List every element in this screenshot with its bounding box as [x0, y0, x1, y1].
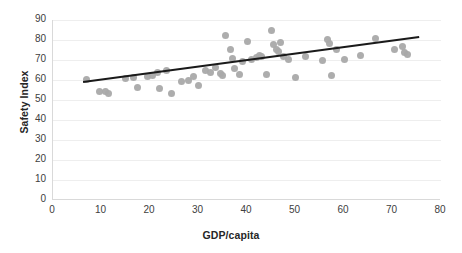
data-point: [326, 40, 333, 47]
data-point: [222, 32, 229, 39]
x-tick-label: 70: [372, 204, 412, 215]
x-tick-label: 20: [129, 204, 169, 215]
data-point: [154, 69, 161, 76]
data-point: [122, 75, 129, 82]
y-tick-label: 60: [4, 73, 46, 84]
data-point: [195, 82, 202, 89]
scatter-chart: Safety Index 0102030405060708090 0102030…: [0, 0, 462, 253]
gridline: [53, 20, 441, 21]
x-tick-label: 10: [81, 204, 121, 215]
data-point: [156, 85, 163, 92]
data-point: [239, 58, 246, 65]
data-point: [244, 38, 251, 45]
data-point: [227, 46, 234, 53]
data-point: [372, 35, 379, 42]
data-point: [105, 90, 112, 97]
y-tick-label: 30: [4, 133, 46, 144]
data-point: [268, 27, 275, 34]
x-tick-label: 60: [323, 204, 363, 215]
gridline: [53, 60, 441, 61]
data-point: [328, 72, 335, 79]
plot-area: [52, 20, 440, 200]
y-tick-label: 80: [4, 33, 46, 44]
data-point: [391, 46, 398, 53]
y-tick-label: 50: [4, 93, 46, 104]
x-tick-label: 0: [32, 204, 72, 215]
data-point: [163, 67, 170, 74]
gridline: [53, 160, 441, 161]
data-point: [292, 74, 299, 81]
x-tick-label: 30: [178, 204, 218, 215]
data-point: [302, 53, 309, 60]
gridline: [53, 180, 441, 181]
y-tick-label: 20: [4, 153, 46, 164]
y-tick-label: 40: [4, 113, 46, 124]
data-point: [333, 46, 340, 53]
x-tick-label: 80: [420, 204, 460, 215]
data-point: [263, 71, 270, 78]
data-point: [357, 52, 364, 59]
gridline: [53, 80, 441, 81]
y-tick-label: 0: [4, 193, 46, 204]
gridline: [53, 120, 441, 121]
x-tick-label: 50: [275, 204, 315, 215]
x-axis-title: GDP/capita: [0, 229, 462, 241]
data-point: [229, 55, 236, 62]
data-point: [277, 39, 284, 46]
data-point: [83, 76, 90, 83]
data-point: [341, 56, 348, 63]
trendline: [53, 20, 441, 200]
y-tick-label: 70: [4, 53, 46, 64]
data-point: [258, 53, 265, 60]
data-point: [130, 74, 137, 81]
data-point: [319, 57, 326, 64]
gridline: [53, 100, 441, 101]
data-point: [178, 78, 185, 85]
y-tick-label: 90: [4, 13, 46, 24]
gridline: [53, 140, 441, 141]
data-point: [190, 73, 197, 80]
data-point: [219, 72, 226, 79]
data-point: [404, 51, 411, 58]
data-point: [134, 84, 141, 91]
data-point: [285, 56, 292, 63]
y-tick-label: 10: [4, 173, 46, 184]
data-point: [236, 71, 243, 78]
data-point: [168, 90, 175, 97]
x-tick-label: 40: [226, 204, 266, 215]
